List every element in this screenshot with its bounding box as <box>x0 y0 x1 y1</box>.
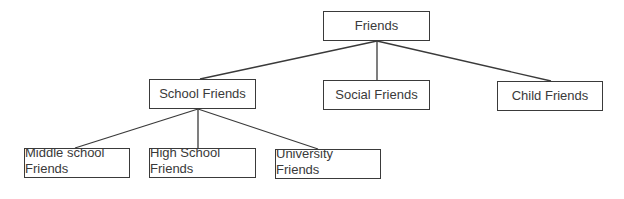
node-university-friends: University Friends <box>275 149 381 179</box>
node-social-friends-label: Social Friends <box>335 88 417 102</box>
node-high-school-line1: High School <box>150 146 220 160</box>
node-social-friends: Social Friends <box>323 80 430 110</box>
node-friends-label: Friends <box>355 19 398 33</box>
node-school-friends: School Friends <box>149 79 256 109</box>
edge-friends-child <box>377 41 551 81</box>
node-friends: Friends <box>323 11 430 41</box>
node-middle-school-line1: Middle school <box>25 146 105 160</box>
edge-friends-school <box>200 41 377 79</box>
node-high-school-line2: Friends <box>150 162 193 176</box>
edge-school-middle <box>75 109 198 148</box>
node-child-friends-label: Child Friends <box>512 89 589 103</box>
node-high-school-friends: High School Friends <box>149 148 256 178</box>
edge-school-university <box>198 109 318 149</box>
node-middle-school-friends: Middle school Friends <box>24 148 130 178</box>
node-school-friends-label: School Friends <box>159 87 246 101</box>
node-child-friends: Child Friends <box>497 81 603 111</box>
node-university-line2: Friends <box>276 163 319 177</box>
node-university-line1: University <box>276 147 333 161</box>
node-middle-school-line2: Friends <box>25 162 68 176</box>
